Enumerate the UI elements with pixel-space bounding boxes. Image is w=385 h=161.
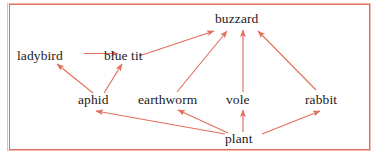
arrow-aphid-to-blue-tit — [104, 64, 122, 93]
food-web-arrows — [0, 0, 385, 161]
arrow-earthworm-to-buzzard — [177, 31, 227, 92]
arrow-aphid-to-ladybird — [57, 64, 93, 93]
node-blue-tit: blue tit — [104, 49, 143, 63]
arrow-blue-tit-to-buzzard — [139, 31, 214, 56]
arrow-rabbit-to-buzzard — [258, 31, 316, 90]
node-ladybird: ladybird — [17, 49, 63, 63]
node-aphid: aphid — [78, 93, 109, 107]
node-vole: vole — [226, 93, 250, 107]
node-rabbit: rabbit — [305, 93, 337, 107]
node-earthworm: earthworm — [138, 93, 197, 107]
food-web-diagram: buzzard ladybird blue tit aphid earthwor… — [0, 0, 385, 161]
arrow-plant-to-rabbit — [262, 111, 320, 134]
node-plant: plant — [225, 132, 253, 146]
node-buzzard: buzzard — [215, 12, 258, 26]
